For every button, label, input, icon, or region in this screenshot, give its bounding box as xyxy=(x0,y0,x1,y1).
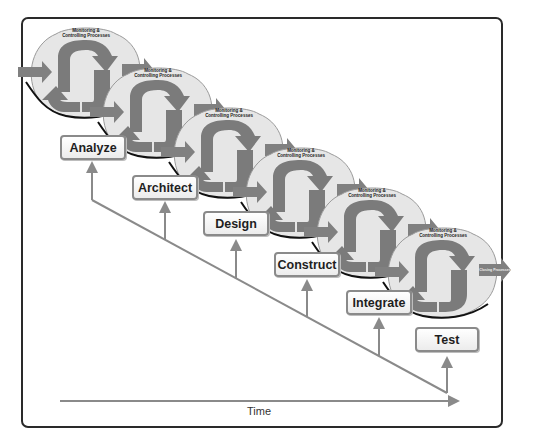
phase-design: Design xyxy=(203,211,269,236)
monitoring-label-2: Controlling Processes xyxy=(277,153,325,158)
phase-test: Test xyxy=(415,327,479,352)
phase-label: Analyze xyxy=(69,141,116,155)
phase-integrate: Integrate xyxy=(346,290,412,315)
phase-construct: Construct xyxy=(274,252,340,277)
monitoring-label-2: Controlling Processes xyxy=(419,233,467,238)
phase-analyze: Analyze xyxy=(60,135,126,160)
phase-label: Test xyxy=(435,333,460,347)
monitoring-label-2: Controlling Processes xyxy=(205,113,253,118)
phase-label: Integrate xyxy=(353,296,406,310)
monitoring-label-2: Controlling Processes xyxy=(348,193,396,198)
phase-architect: Architect xyxy=(132,175,198,200)
time-axis-label: Time xyxy=(247,405,271,417)
closing-label: Closing Processes xyxy=(479,268,510,272)
phase-label: Design xyxy=(215,217,257,231)
monitoring-label-2: Controlling Processes xyxy=(134,73,182,78)
monitoring-label-2: Controlling Processes xyxy=(62,33,110,38)
phase-label: Architect xyxy=(138,181,192,195)
phase-diagram: Monitoring & Controlling Processes Monit… xyxy=(0,0,546,445)
phase-label: Construct xyxy=(277,258,336,272)
